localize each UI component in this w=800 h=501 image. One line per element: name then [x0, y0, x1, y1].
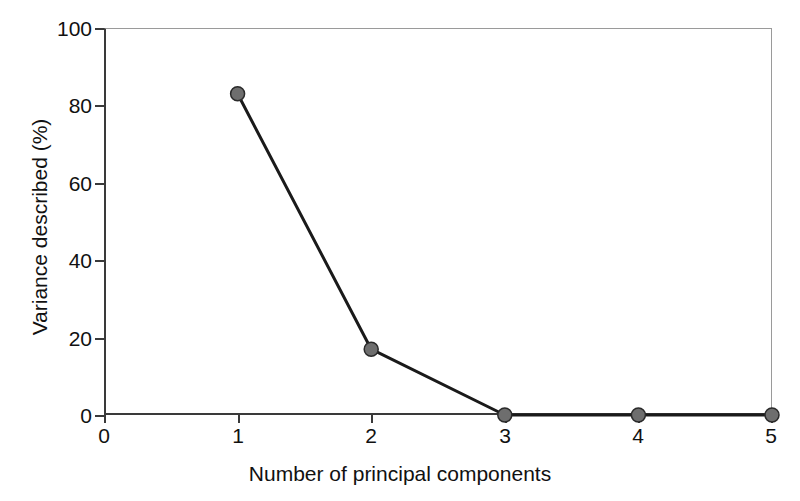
- series-markers-variance: [231, 87, 779, 422]
- data-series-layer: [0, 0, 800, 501]
- data-point-pc-2: [364, 342, 378, 356]
- data-point-pc-1: [231, 87, 245, 101]
- scree-plot-figure: 100 80 60 40 20 0 0 1 2 3 4 5 Number of …: [0, 0, 800, 501]
- series-line-variance: [238, 94, 772, 415]
- data-point-pc-4: [631, 408, 645, 422]
- data-point-pc-5: [765, 408, 779, 422]
- data-point-pc-3: [498, 408, 512, 422]
